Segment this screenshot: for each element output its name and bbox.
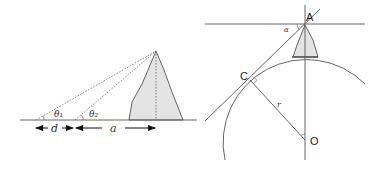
label-O: O <box>310 135 319 147</box>
label-A: A <box>306 11 314 23</box>
right-diagram: A C O r α <box>205 5 365 160</box>
tangent-line <box>205 9 320 121</box>
theta1-arc <box>43 116 44 120</box>
d-label: d <box>51 122 58 135</box>
theta2-arc <box>82 115 84 120</box>
theta2-label: θ₂ <box>89 109 98 119</box>
radius-line <box>250 80 305 140</box>
alpha-arc <box>297 24 299 30</box>
label-r: r <box>277 100 282 109</box>
label-alpha: α <box>284 26 289 34</box>
a-label: a <box>110 122 117 135</box>
theta1-label: θ₁ <box>54 109 63 119</box>
figure: θ₁ θ₂ d a A C O r α <box>0 0 384 171</box>
o-angle-arc <box>301 134 305 136</box>
label-C: C <box>240 70 248 82</box>
mountain-shape-right <box>293 25 318 57</box>
left-diagram: θ₁ θ₂ d a <box>20 51 197 135</box>
